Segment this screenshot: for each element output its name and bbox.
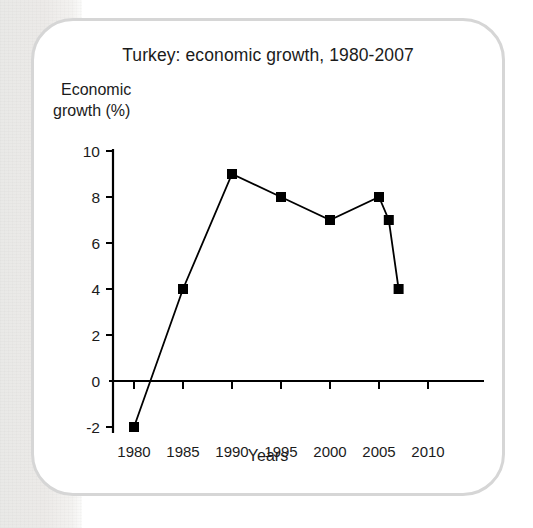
data-point-marker	[276, 192, 286, 202]
data-point-marker	[384, 215, 394, 225]
y-axis-tick-label: 10	[83, 143, 101, 160]
series-line	[134, 174, 399, 427]
y-axis-tick-label: -2	[86, 419, 100, 436]
y-axis-tick-label: 4	[91, 281, 100, 298]
y-axis-tick-label: 0	[91, 373, 100, 390]
line-chart-svg: -202468101980198519901995200020052010	[34, 21, 508, 499]
y-axis-tick-label: 6	[91, 235, 100, 252]
data-point-marker	[129, 422, 139, 432]
data-point-marker	[325, 215, 335, 225]
x-axis-label: Years	[34, 447, 502, 465]
y-axis-tick-label: 8	[91, 189, 100, 206]
data-point-marker	[227, 169, 237, 179]
plot-area: -202468101980198519901995200020052010	[34, 21, 508, 499]
data-point-marker	[374, 192, 384, 202]
y-axis-tick-label: 2	[91, 327, 100, 344]
data-point-marker	[178, 284, 188, 294]
data-point-marker	[394, 284, 404, 294]
figure-card: Turkey: economic growth, 1980-2007 Econo…	[31, 18, 505, 496]
